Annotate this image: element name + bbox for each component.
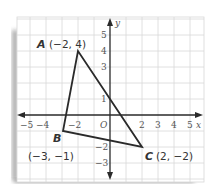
point-c-name: C: [145, 150, 153, 163]
point-b-coords: (−3, −1): [28, 150, 74, 162]
point-a-name: A: [36, 38, 46, 51]
origin-label: O: [100, 120, 108, 130]
y-tick-label: −3: [95, 158, 109, 168]
y-tick-label: 5: [101, 30, 107, 40]
y-tick-label: 4: [101, 46, 107, 56]
x-tick-label: 3: [155, 120, 161, 130]
coordinate-plane: y x O −5 −4 −2 2 3 4 5 5 4 3 1 −2 −3 A (…: [0, 0, 213, 190]
point-c-coords: (2, −2): [156, 150, 193, 162]
x-tick-label: −5: [20, 120, 34, 130]
x-tick-label: 4: [171, 120, 177, 130]
x-tick-label: 2: [139, 120, 145, 130]
y-axis-label: y: [114, 18, 121, 28]
point-b-name: B: [53, 132, 61, 145]
x-tick-label: −4: [36, 120, 50, 130]
x-tick-label: 5: [187, 120, 193, 130]
x-axis-label: x: [196, 120, 201, 130]
y-tick-label: 1: [101, 94, 107, 104]
y-tick-label: −2: [95, 142, 108, 152]
x-tick-label: −2: [68, 120, 81, 130]
y-tick-label: 3: [101, 62, 107, 72]
point-a-label: A (−2, 4): [36, 38, 86, 51]
point-a-coords: (−2, 4): [49, 38, 86, 50]
point-c-label: C (2, −2): [145, 150, 193, 163]
